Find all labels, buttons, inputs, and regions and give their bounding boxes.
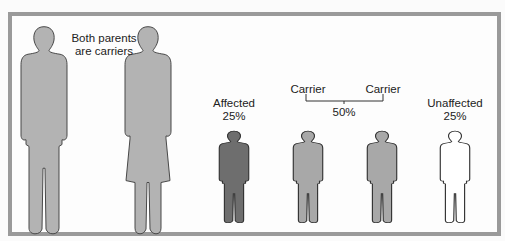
unaffected-label-text: Unaffected: [420, 97, 490, 110]
carrier-percent: 50%: [324, 106, 364, 119]
child-carrier-figure-2: [367, 131, 396, 223]
child-carrier-figure-1: [293, 131, 322, 223]
affected-percent: 25%: [204, 110, 264, 123]
unaffected-label: Unaffected 25%: [420, 97, 490, 123]
parents-label: Both parents are carriers: [64, 32, 144, 58]
parents-label-line2: are carriers: [64, 45, 144, 58]
child-unaffected-figure: [440, 131, 469, 223]
child-affected-figure: [219, 131, 248, 223]
affected-label: Affected 25%: [204, 97, 264, 123]
parents-label-line1: Both parents: [64, 32, 144, 45]
carrier-label-1: Carrier: [283, 83, 333, 96]
parent-father-figure: [21, 27, 67, 234]
unaffected-percent: 25%: [420, 110, 490, 123]
carrier-label-2: Carrier: [358, 83, 408, 96]
affected-label-text: Affected: [204, 97, 264, 110]
